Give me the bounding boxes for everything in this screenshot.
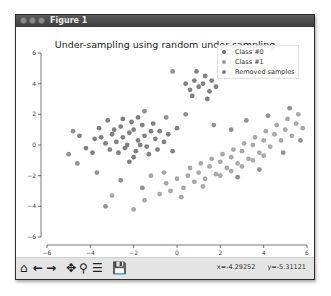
svg-text:6: 6: [32, 49, 36, 56]
pan-icon[interactable]: ✥: [66, 260, 76, 276]
x-readout: x=-4.29252: [217, 263, 256, 271]
legend: Class #0 Class #1 Removed samples: [217, 45, 299, 79]
scatter-points: [66, 69, 305, 212]
legend-marker-removed: [222, 70, 226, 74]
legend-item-removed: Removed samples: [222, 67, 295, 77]
svg-text:2: 2: [218, 249, 222, 256]
svg-text:−6: −6: [27, 233, 36, 240]
legend-marker-class0: [222, 50, 226, 54]
save-icon[interactable]: 💾: [112, 260, 127, 276]
svg-text:−4: −4: [27, 202, 36, 209]
home-icon[interactable]: ⌂: [20, 260, 28, 276]
svg-text:6: 6: [305, 249, 309, 256]
zoom-icon[interactable]: ⚲: [79, 260, 88, 276]
navigation-toolbar: ⌂ ← → ✥ ⚲ ☰ 💾 x=-4.29252 y=-5.31121: [16, 257, 314, 279]
legend-item-class0: Class #0: [222, 47, 264, 57]
svg-text:0: 0: [32, 141, 36, 148]
figure-window: Figure 1 Under-sampling using random und…: [15, 14, 315, 280]
svg-text:−4: −4: [86, 249, 95, 256]
back-icon[interactable]: ←: [33, 260, 43, 276]
svg-text:−2: −2: [27, 172, 36, 179]
svg-text:0: 0: [175, 249, 179, 256]
y-readout: y=-5.31121: [267, 263, 306, 271]
svg-text:2: 2: [32, 110, 36, 117]
forward-icon[interactable]: →: [46, 260, 56, 276]
legend-item-class1: Class #1: [222, 57, 264, 67]
legend-marker-class1: [222, 60, 226, 64]
svg-text:4: 4: [32, 80, 36, 87]
configure-subplots-icon[interactable]: ☰: [92, 260, 103, 276]
svg-text:−2: −2: [129, 249, 138, 256]
svg-text:−6: −6: [43, 249, 52, 256]
cursor-coordinates: x=-4.29252 y=-5.31121: [207, 263, 306, 271]
svg-text:4: 4: [262, 249, 266, 256]
